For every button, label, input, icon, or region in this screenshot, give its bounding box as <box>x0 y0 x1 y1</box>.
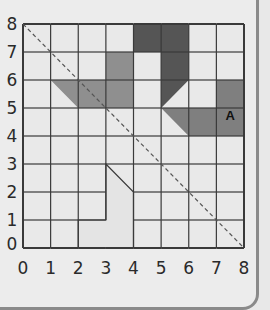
y-tick-label: 8 <box>7 14 18 34</box>
shape-labels: A <box>225 108 235 123</box>
x-tick-label: 6 <box>183 258 194 278</box>
x-tick-label: 1 <box>45 258 56 278</box>
y-tick-label: 3 <box>7 154 18 174</box>
x-tick-label: 8 <box>239 258 250 278</box>
x-tick-label: 7 <box>211 258 222 278</box>
y-tick-label: 5 <box>7 98 18 118</box>
x-tick-label: 2 <box>73 258 84 278</box>
x-tick-label: 0 <box>18 258 29 278</box>
y-tick-label: 4 <box>7 126 18 146</box>
y-tick-label: 7 <box>7 42 18 62</box>
shape-label-a: A <box>225 108 235 123</box>
x-tick-label: 4 <box>128 258 139 278</box>
y-tick-label: 1 <box>7 210 18 230</box>
x-tick-label: 5 <box>156 258 167 278</box>
y-tick-label: 6 <box>7 70 18 90</box>
y-tick-label: 0 <box>7 234 18 254</box>
y-tick-label: 2 <box>7 182 18 202</box>
x-tick-label: 3 <box>100 258 111 278</box>
